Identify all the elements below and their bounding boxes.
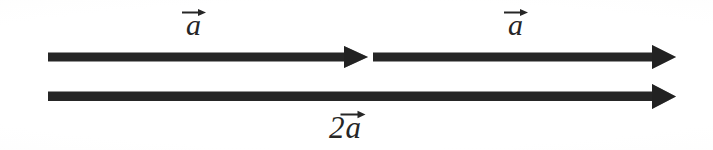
vector-arrow-accent-icon <box>181 7 207 17</box>
vector-2a-arrow <box>48 84 676 109</box>
vector-accent-group-a-second: a <box>508 8 523 40</box>
label-vector-2a: 2 a <box>329 110 361 143</box>
label-vector-a-first: a <box>186 8 201 40</box>
vector-a-second-arrow <box>373 45 676 69</box>
vector-accent-group-2a: a <box>346 110 362 143</box>
vector-arrow-accent-icon <box>340 109 367 119</box>
vector-a-first-arrow <box>48 46 368 68</box>
vector-accent-group-a-first: a <box>186 8 201 40</box>
label-vector-a-second: a <box>508 8 523 40</box>
vector-arrow-accent-icon <box>503 7 529 17</box>
vector-diagram-figure: a a 2 a <box>0 0 713 150</box>
